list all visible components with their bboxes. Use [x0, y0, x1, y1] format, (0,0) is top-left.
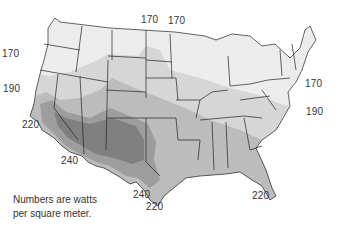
contour-label: 240 — [61, 155, 78, 166]
contour-label: 170 — [2, 48, 19, 59]
contour-label: 240 — [133, 189, 150, 200]
contour-label: 220 — [146, 201, 163, 212]
units-note-line2: per square meter. — [13, 207, 97, 221]
contour-label: 170 — [305, 78, 322, 89]
contour-label: 170 — [141, 14, 158, 25]
contour-label: 190 — [306, 106, 323, 117]
contour-label: 220 — [252, 190, 269, 201]
units-note-line1: Numbers are watts — [13, 193, 97, 207]
contour-label: 170 — [168, 15, 185, 26]
units-note: Numbers are watts per square meter. — [13, 193, 97, 221]
contour-label: 220 — [22, 119, 39, 130]
contour-label: 190 — [3, 83, 20, 94]
